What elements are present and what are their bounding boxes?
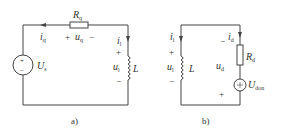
uq-plus: +	[65, 32, 70, 42]
label-us: Us	[37, 60, 47, 72]
source-plus: +	[20, 57, 24, 65]
wire-b-bottom	[181, 80, 240, 105]
source-minus: −	[20, 67, 24, 75]
inductor-l-a	[128, 56, 130, 80]
ul-minus-b: −	[169, 76, 174, 86]
resistor-rq	[70, 22, 88, 28]
label-udon: Udon	[248, 79, 264, 91]
source-plus-icon	[237, 82, 243, 88]
circuit-diagrams: + − Rq iq + uq − Us il + ul − L a)	[0, 0, 281, 135]
current-arrow-il-b-icon	[179, 36, 183, 42]
resistor-rd	[237, 45, 243, 65]
label-l-b: L	[188, 63, 195, 74]
wire-a-top-left	[23, 25, 70, 55]
caption-b: b)	[202, 116, 210, 126]
current-arrow-id-icon	[238, 32, 242, 38]
label-ud: ud	[216, 60, 224, 72]
uq-minus: −	[89, 32, 94, 42]
current-arrow-il-icon	[126, 36, 130, 42]
circuit-b: il + ul − L id − Rd ud Udon + b)	[167, 25, 264, 126]
ul-plus-b: +	[169, 47, 174, 57]
wire-a-bottom	[23, 75, 128, 105]
current-arrow-iq-icon	[40, 23, 46, 27]
ul-minus-a: −	[116, 76, 121, 86]
label-rq: Rq	[72, 9, 82, 21]
label-id: id	[228, 31, 234, 43]
inductor-l-b	[181, 56, 183, 80]
ud-minus: −	[220, 36, 225, 46]
label-il-a: il	[117, 35, 122, 47]
label-il-b: il	[170, 31, 175, 43]
label-ul-a: ul	[113, 61, 120, 73]
label-uq: uq	[75, 31, 83, 43]
ud-plus: +	[219, 89, 224, 99]
label-iq: iq	[40, 31, 46, 43]
label-l-a: L	[132, 63, 139, 74]
ul-plus-a: +	[116, 47, 121, 57]
label-rd: Rd	[245, 51, 255, 63]
caption-a: a)	[71, 116, 78, 126]
label-ul-b: ul	[167, 61, 174, 73]
circuit-a: + − Rq iq + uq − Us il + ul − L a)	[13, 9, 139, 126]
